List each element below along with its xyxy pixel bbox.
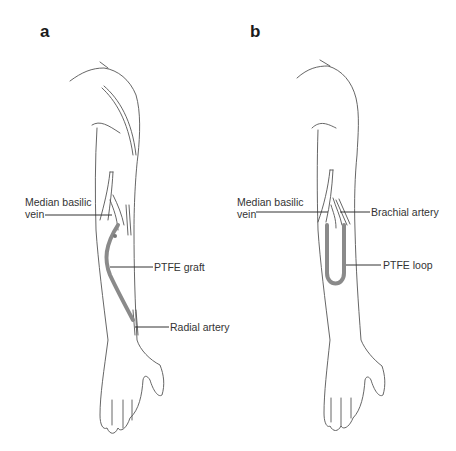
leader-lines (45, 212, 381, 327)
label-brachial-artery: Brachial artery (371, 206, 439, 218)
label-vein-line1-a: Median basilic (25, 196, 92, 208)
panel-label-a: a (40, 22, 49, 42)
label-vein-line1-b: Median basilic (237, 196, 304, 208)
diagram-canvas (0, 0, 456, 451)
ptfe-loop-b (327, 225, 344, 284)
label-median-basilic-vein-a: Median basilic vein (25, 196, 92, 220)
label-radial-artery: Radial artery (170, 321, 230, 333)
label-vein-line2-b: vein (237, 208, 304, 220)
label-ptfe-loop: PTFE loop (383, 259, 433, 271)
arm-a (70, 62, 164, 433)
panel-label-b: b (250, 22, 260, 42)
label-ptfe-graft: PTFE graft (154, 261, 205, 273)
label-vein-line2-a: vein (25, 208, 92, 220)
label-median-basilic-vein-b: Median basilic vein (237, 196, 304, 220)
ptfe-graft-a (106, 225, 133, 320)
anastomosis-a (113, 234, 117, 238)
arm-b (297, 60, 385, 431)
